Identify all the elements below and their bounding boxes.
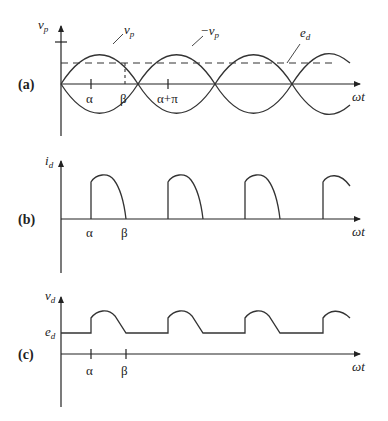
- beta-label-b: β: [121, 225, 128, 240]
- alpha-pi-label-a: α+π: [157, 91, 178, 106]
- alpha-label-b: α: [86, 225, 93, 240]
- panel-b-y-label: id: [45, 153, 54, 170]
- panel-b: (b) id ωt α β: [18, 153, 365, 273]
- panel-a-label: (a): [18, 77, 35, 93]
- panel-c: (c) vd ed ωt α β: [18, 288, 365, 407]
- id-pulse-4: [323, 176, 350, 219]
- id-pulse-3: [245, 175, 280, 219]
- beta-label-c: β: [121, 363, 128, 378]
- ed-level-label: ed: [45, 324, 56, 341]
- panel-c-x-label: ωt: [352, 359, 365, 374]
- vp-label: vp: [124, 22, 135, 39]
- ed-label: ed: [300, 25, 311, 42]
- beta-label-a: β: [120, 91, 127, 106]
- panel-b-x-label: ωt: [352, 224, 365, 239]
- panel-a-x-label: ωt: [352, 89, 365, 104]
- neg-vp-label: −vp: [200, 23, 220, 40]
- alpha-label-a: α: [86, 91, 93, 106]
- alpha-label-c: α: [86, 363, 93, 378]
- panel-b-label: (b): [18, 212, 35, 228]
- panel-a: (a) vp ωt α β α+π vp −vp ed: [18, 17, 365, 136]
- panel-c-label: (c): [18, 347, 34, 363]
- ed-leader: [287, 44, 300, 63]
- vp-leader: [113, 34, 123, 44]
- vp-curve: [61, 55, 350, 115]
- waveform-diagram: (a) vp ωt α β α+π vp −vp ed (b) id: [0, 0, 388, 421]
- id-pulse-2: [168, 175, 203, 219]
- panel-c-y-label: vd: [45, 288, 56, 305]
- panel-a-y-label: vp: [38, 17, 49, 34]
- vd-curve: [61, 311, 350, 333]
- id-pulse-1: [91, 175, 126, 219]
